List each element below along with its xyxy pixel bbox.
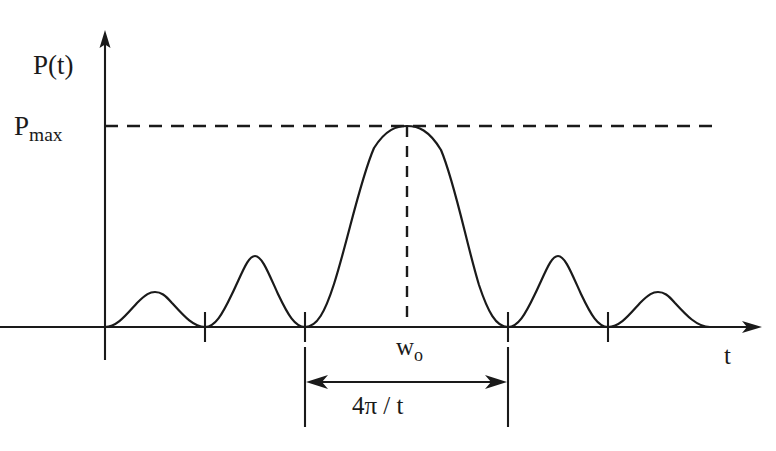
y-axis-label: P(t) — [33, 52, 74, 79]
center-frequency-label-base: w — [396, 333, 414, 360]
figure-canvas: P(t) Pmax wo 4π / t t — [0, 0, 776, 451]
width-dimension-arrow — [306, 375, 507, 389]
main-lobe-width-label: 4π / t — [352, 393, 404, 418]
y-axis — [100, 30, 111, 360]
center-frequency-label-subscript: o — [414, 345, 423, 365]
peak-value-label-base: P — [14, 111, 29, 141]
x-axis-label: t — [724, 343, 731, 368]
peak-value-label-subscript: max — [29, 124, 62, 145]
peak-value-label: Pmax — [14, 113, 63, 145]
center-frequency-label: wo — [396, 334, 423, 364]
pulse-power-diagram — [0, 0, 776, 451]
x-axis — [0, 321, 762, 333]
